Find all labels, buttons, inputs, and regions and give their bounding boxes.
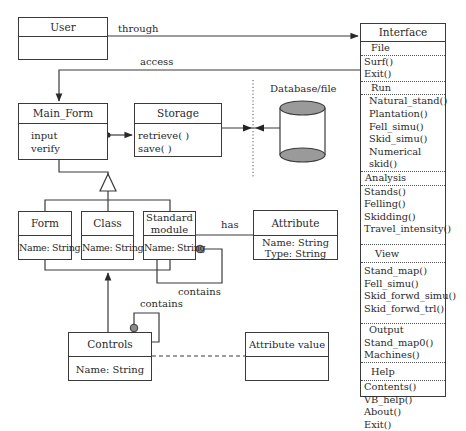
main-form-member: verify	[31, 142, 107, 155]
group-bracket	[45, 260, 170, 270]
menu-item[interactable]: Numerical skid()	[361, 146, 445, 171]
form-class-name: Form	[19, 212, 71, 236]
storage-class[interactable]: Storage retrieve( ) save( )	[134, 103, 222, 157]
form-class[interactable]: Form Name: String	[18, 211, 72, 260]
storage-class-name: Storage	[135, 104, 221, 124]
menu-item[interactable]: Fell_simu()	[361, 278, 445, 291]
menu-item[interactable]: Exit()	[361, 419, 445, 431]
form-member: Name: String	[19, 236, 71, 254]
user-class[interactable]: User	[18, 17, 108, 60]
section-title: Run	[361, 81, 445, 96]
controls-class-name: Controls	[69, 333, 151, 357]
class-class[interactable]: Class Name: String	[81, 211, 134, 260]
standard-module-name-line2: module	[151, 224, 188, 236]
attribute-class-name: Attribute	[254, 211, 337, 236]
generalization-triangle-icon	[100, 174, 116, 191]
class-member: Name: String	[82, 236, 133, 254]
controls-class[interactable]: Controls Name: String	[68, 332, 152, 381]
contains-module-label: contains	[178, 286, 221, 297]
standard-module-member: Name: String	[144, 236, 195, 254]
user-class-name: User	[19, 18, 107, 37]
section-title: Analysis	[361, 171, 445, 186]
menu-item[interactable]: Stands()	[361, 186, 445, 199]
menu-item[interactable]: Exit()	[361, 68, 445, 81]
menu-item[interactable]: Surf()	[361, 56, 445, 69]
main-form-class-name: Main_Form	[19, 104, 107, 124]
section-title: Help	[361, 362, 445, 381]
interface-section-analysis: Analysis Stands() Felling() Skidding() T…	[361, 171, 445, 236]
menu-item[interactable]: Fell_simu()	[361, 121, 445, 134]
through-label: through	[118, 23, 159, 34]
has-label: has	[221, 219, 239, 230]
attribute-value-class-name: Attribute value	[246, 333, 328, 357]
standard-module-class-name: Standard module	[144, 212, 195, 236]
interface-class[interactable]: Interface File Surf() Exit() Run Natural…	[360, 23, 446, 397]
class-class-name: Class	[82, 212, 133, 236]
attribute-member: Name: String	[254, 237, 337, 248]
contains-controls-label: contains	[140, 298, 183, 309]
interface-section-output: Output Stand_map0() Machines()	[361, 323, 445, 362]
arrow-left-icon	[255, 125, 264, 132]
database-cylinder-icon	[280, 101, 325, 162]
interface-section-run: Run Natural_stand() Plantation() Fell_si…	[361, 81, 445, 171]
menu-item[interactable]: Stand_map0()	[361, 337, 445, 350]
menu-item[interactable]: Natural_stand()	[361, 95, 445, 108]
storage-member: retrieve( )	[138, 129, 221, 142]
access-label: access	[140, 56, 173, 67]
interface-class-name: Interface	[361, 24, 445, 42]
interface-section-help: Help Contents() VB_help() About() Exit()	[361, 362, 445, 431]
main-form-member: input	[31, 129, 107, 142]
main-form-class[interactable]: Main_Form input verify	[18, 103, 108, 160]
section-title: View	[361, 244, 445, 263]
generalization-connector	[59, 160, 108, 178]
database-label: Database/file	[270, 83, 337, 94]
controls-member: Name: String	[69, 357, 151, 376]
menu-item[interactable]: Contents()	[361, 381, 445, 394]
menu-item[interactable]: Stand_map()	[361, 263, 445, 278]
section-title: File	[361, 42, 445, 56]
menu-item[interactable]: Skid_forwd_simu()	[361, 290, 445, 303]
interface-section-view: View Stand_map() Fell_simu() Skid_forwd_…	[361, 244, 445, 315]
section-title: Output	[361, 323, 445, 337]
arrow-right-icon	[243, 125, 252, 132]
attribute-class[interactable]: Attribute Name: String Type: String	[253, 210, 338, 260]
standard-module-name-line1: Standard	[146, 212, 193, 224]
aggregation-dot-icon	[130, 324, 138, 332]
menu-item[interactable]: Skid_forwd_trl()	[361, 303, 445, 316]
standard-module-class[interactable]: Standard module Name: String	[143, 211, 196, 260]
menu-item[interactable]: Felling()	[361, 198, 445, 211]
menu-item[interactable]: Skidding()	[361, 211, 445, 224]
interface-section-file: File Surf() Exit()	[361, 42, 445, 81]
menu-item[interactable]: VB_help()	[361, 394, 445, 407]
menu-item[interactable]: About()	[361, 406, 445, 419]
attribute-member: Type: String	[254, 248, 337, 259]
attribute-value-class[interactable]: Attribute value	[245, 332, 329, 381]
menu-item[interactable]: Travel_intensity()	[361, 223, 445, 236]
storage-member: save( )	[138, 142, 221, 155]
menu-item[interactable]: Skid_simu()	[361, 133, 445, 146]
menu-item[interactable]: Machines()	[361, 349, 445, 362]
menu-item[interactable]: Plantation()	[361, 108, 445, 121]
